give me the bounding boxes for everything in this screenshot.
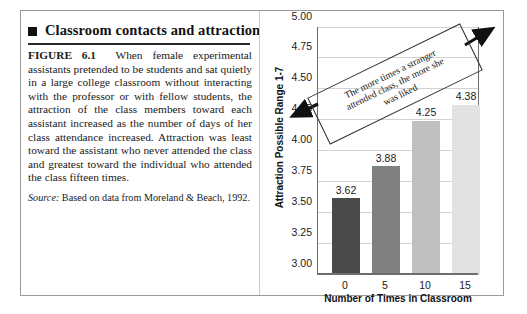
plot-inner: 3.00 3.25 3.50 3.75 4.00 4.25 4.50 4.75 … bbox=[318, 27, 478, 275]
x-tick-5: 5 bbox=[382, 279, 388, 291]
black-square-bullet-icon bbox=[28, 27, 37, 36]
figure-source: Source: Based on data from Moreland & Be… bbox=[28, 192, 252, 204]
x-axis-ticks: 0 5 10 15 bbox=[317, 275, 479, 293]
figure-caption: FIGURE 6.1 When female experimental assi… bbox=[28, 49, 252, 185]
figure-number-label: FIGURE 6.1 bbox=[28, 49, 96, 61]
y-tick-5-00: 5.00 bbox=[292, 10, 312, 22]
bar-value-10: 4.25 bbox=[416, 106, 436, 118]
bar-chart: Attraction Possible Range 1-7 3.00 3.25 … bbox=[262, 14, 500, 296]
y-axis-label: Attraction Possible Range 1-7 bbox=[274, 58, 285, 218]
source-label: Source: bbox=[28, 192, 59, 203]
bar-0[interactable] bbox=[332, 198, 360, 275]
y-tick-3-25: 3.25 bbox=[292, 226, 312, 238]
header-divider bbox=[28, 43, 250, 45]
y-tick-4-75: 4.75 bbox=[292, 40, 312, 52]
y-tick-3-75: 3.75 bbox=[292, 164, 312, 176]
gridline-5-00 bbox=[318, 27, 478, 28]
figure-header: Classroom contacts and attraction bbox=[28, 17, 260, 43]
y-tick-4-00: 4.00 bbox=[292, 133, 312, 145]
page-title: Classroom contacts and attraction bbox=[45, 22, 260, 39]
column-divider bbox=[259, 11, 260, 295]
source-text: Based on data from Moreland & Beach, 199… bbox=[62, 192, 250, 203]
bar-15[interactable] bbox=[452, 105, 480, 275]
x-tick-0: 0 bbox=[342, 279, 348, 291]
figure-caption-column: FIGURE 6.1 When female experimental assi… bbox=[28, 49, 252, 204]
x-axis-label: Number of Times in Classroom bbox=[295, 293, 501, 304]
figure-caption-text: When female experimental assistants pret… bbox=[28, 49, 252, 183]
plot-area: 3.00 3.25 3.50 3.75 4.00 4.25 4.50 4.75 … bbox=[317, 27, 479, 275]
bar-10[interactable] bbox=[412, 121, 440, 275]
y-tick-4-50: 4.50 bbox=[292, 71, 312, 83]
x-tick-15: 15 bbox=[459, 279, 471, 291]
figure-page: Classroom contacts and attraction FIGURE… bbox=[0, 0, 527, 314]
bar-value-0: 3.62 bbox=[336, 184, 356, 196]
x-tick-10: 10 bbox=[419, 279, 431, 291]
y-tick-3-50: 3.50 bbox=[292, 195, 312, 207]
bar-value-15: 4.38 bbox=[456, 90, 476, 102]
y-tick-4-25: 4.25 bbox=[292, 102, 312, 114]
y-tick-3-00: 3.00 bbox=[292, 257, 312, 269]
bar-value-5: 3.88 bbox=[376, 152, 396, 164]
gridline-4-75 bbox=[318, 57, 478, 58]
bar-5[interactable] bbox=[372, 166, 400, 275]
gridline-4-50 bbox=[318, 88, 478, 89]
